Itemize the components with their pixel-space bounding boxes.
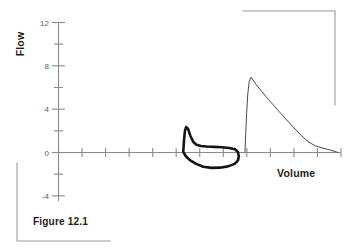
tidal-breathing-loop — [183, 127, 239, 168]
chart-curves — [183, 77, 337, 168]
figure-page: 12840-4 Flow Volume Figure 12.1 — [0, 0, 350, 252]
y-axis-tick-label: -4 — [42, 192, 50, 201]
y-axis-tick-label: 0 — [45, 149, 50, 158]
corner-bracket-bottom-left-icon — [17, 163, 110, 241]
flow-volume-chart: 12840-4 — [0, 0, 350, 252]
forced-expiratory-curve — [245, 77, 338, 152]
y-axis-tick-label: 12 — [40, 19, 49, 28]
y-axis-tick-label: 8 — [45, 62, 50, 71]
x-axis-title: Volume — [277, 167, 315, 179]
x-axis — [52, 148, 341, 157]
corner-bracket-top-right-icon — [243, 11, 335, 105]
y-axis-title: Flow — [14, 16, 26, 72]
y-axis: 12840-4 — [40, 19, 65, 202]
y-axis-tick-labels: 12840-4 — [40, 19, 49, 201]
y-axis-tick-label: 4 — [45, 105, 50, 114]
figure-caption: Figure 12.1 — [33, 216, 88, 227]
